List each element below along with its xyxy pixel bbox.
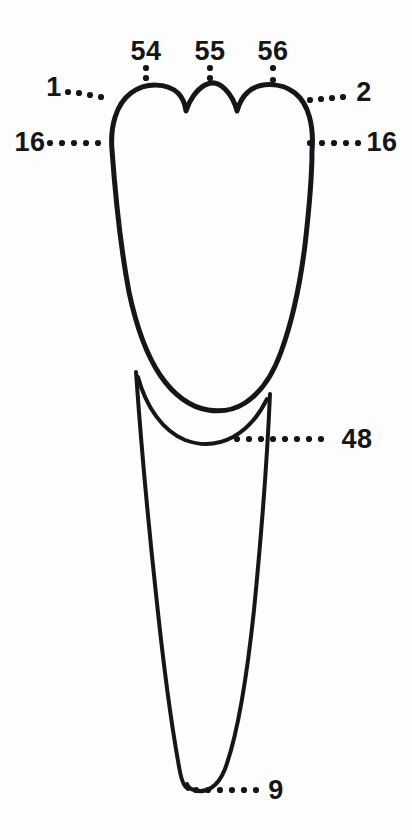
root-mesial-border (136, 372, 188, 789)
root-distal-border (187, 394, 270, 791)
leader-dot (340, 94, 346, 100)
leader-dot (234, 436, 240, 442)
callout-2-leader (307, 94, 346, 103)
leader-dot (270, 77, 276, 83)
tooth-outline-layer (112, 83, 313, 791)
leader-dot (355, 140, 361, 146)
callout-55-leader (207, 65, 213, 81)
leader-dot (318, 96, 324, 102)
leader-dot (217, 787, 223, 793)
leader-dot (246, 436, 252, 442)
leader-dot (319, 140, 325, 146)
callout-54-leader (143, 65, 149, 81)
callout-label-layer: 545556121616489 (14, 36, 397, 805)
leader-dot (329, 95, 335, 101)
leader-dot (47, 140, 53, 146)
callout-56-leader (270, 65, 276, 83)
callout-56-label: 56 (257, 36, 288, 66)
leader-dot (193, 787, 199, 793)
leader-dot (294, 436, 300, 442)
callout-48-label: 48 (341, 424, 372, 454)
leader-dot (306, 436, 312, 442)
callout-16-mesial-label: 16 (14, 127, 45, 157)
callout-16-distal-leader (307, 140, 361, 146)
leader-dot (87, 92, 93, 98)
leader-dot (205, 787, 211, 793)
crown-and-root-silhouette (112, 83, 313, 411)
leader-dot (76, 90, 82, 96)
leader-dot (241, 787, 247, 793)
leader-dot (282, 436, 288, 442)
callout-1-label: 1 (46, 72, 62, 102)
leader-dot (253, 787, 259, 793)
leader-dot (229, 787, 235, 793)
leader-dot (65, 89, 71, 95)
callout-55-label: 55 (194, 36, 225, 66)
leader-dot (83, 140, 89, 146)
leader-dot (307, 140, 313, 146)
leader-dot (307, 97, 313, 103)
callout-1-leader (65, 89, 104, 100)
callout-48-leader (234, 436, 324, 442)
callout-9-label: 9 (268, 775, 284, 805)
callout-54-label: 54 (130, 36, 161, 66)
leader-dot (258, 436, 264, 442)
leader-dot (343, 140, 349, 146)
leader-dot (95, 140, 101, 146)
leader-dot (318, 436, 324, 442)
leader-line-layer (47, 65, 361, 793)
leader-dot (207, 75, 213, 81)
leader-dot (331, 140, 337, 146)
leader-dot (98, 94, 104, 100)
callout-16-distal-label: 16 (366, 127, 397, 157)
leader-dot (59, 140, 65, 146)
tooth-diagram-canvas: Maxillary central incisor, labial view w… (0, 0, 412, 840)
callout-16-mesial-leader (47, 140, 101, 146)
leader-dot (71, 140, 77, 146)
leader-dot (270, 436, 276, 442)
leader-dot (143, 75, 149, 81)
dental-anatomy-figure: Maxillary central incisor, labial view w… (0, 0, 412, 840)
callout-2-label: 2 (356, 77, 372, 107)
